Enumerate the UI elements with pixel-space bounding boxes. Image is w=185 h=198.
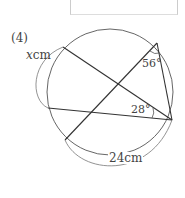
- problem-number: (4): [11, 32, 28, 44]
- arc-length-label: 24cm: [108, 152, 143, 164]
- unknown-unit: cm: [33, 48, 51, 62]
- unknown-var: x: [26, 48, 33, 62]
- circle-diagram: [0, 0, 185, 198]
- chord-b-d: [157, 43, 172, 120]
- angle-28-label: 28°: [131, 104, 151, 115]
- angle-mark-28: [152, 108, 154, 118]
- unknown-length-label: xcm: [26, 49, 51, 61]
- angle-56-label: 56°: [142, 58, 162, 69]
